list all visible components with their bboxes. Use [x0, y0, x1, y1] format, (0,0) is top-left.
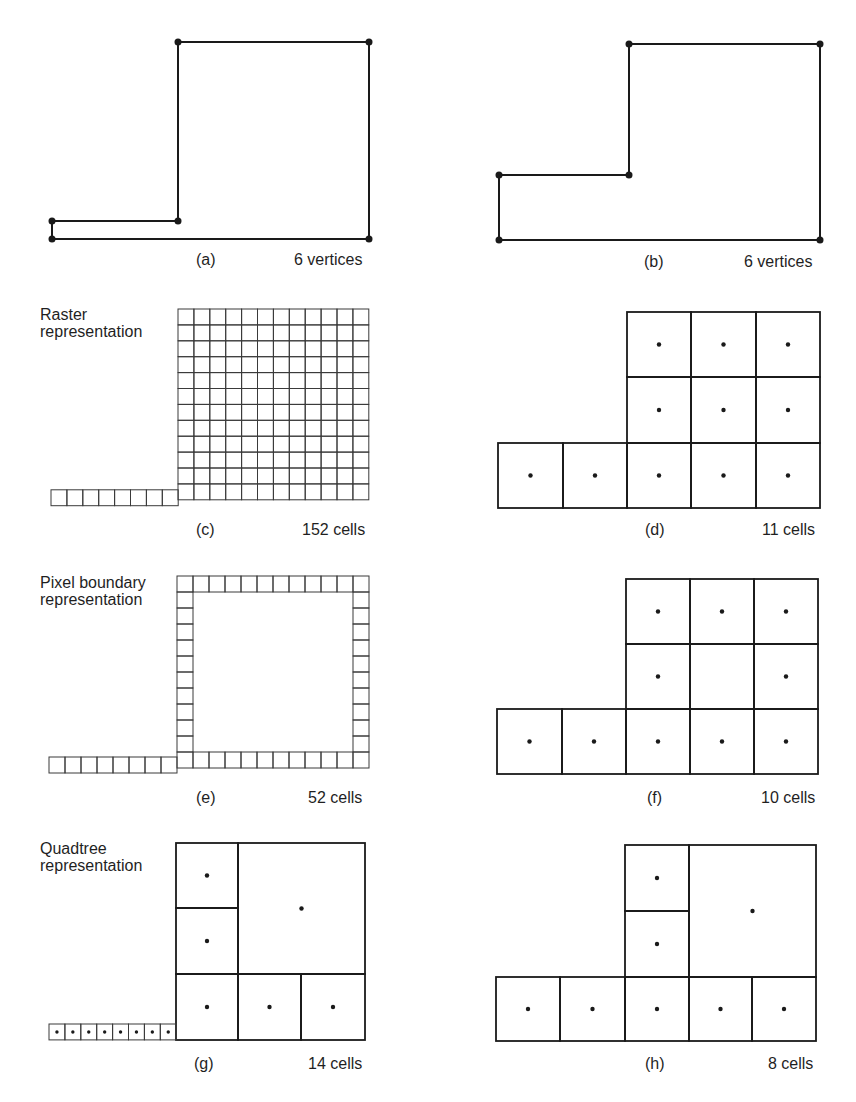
raster-cell [289, 325, 305, 341]
raster-cell [289, 420, 305, 436]
raster-cell [353, 468, 369, 484]
raster-cell [178, 404, 194, 420]
raster-cell [83, 490, 99, 506]
centroid-dot [526, 1007, 530, 1011]
centroid-dot [657, 342, 661, 346]
raster-cell [321, 576, 337, 592]
panel-e-caption: (e) [196, 790, 216, 806]
raster-cell [337, 420, 353, 436]
raster-cell [289, 309, 305, 325]
centroid-dot [119, 1030, 122, 1033]
raster-cell [321, 309, 337, 325]
raster-cell [115, 490, 131, 506]
raster-cell [353, 389, 369, 405]
raster-cell [258, 389, 274, 405]
vertex-dot [496, 237, 503, 244]
panel-a-caption: (a) [196, 252, 216, 268]
raster-cell [226, 373, 242, 389]
centroid-dot [786, 342, 790, 346]
centroid-dot [205, 873, 209, 877]
centroid-dot [721, 342, 725, 346]
raster-cell [225, 752, 241, 768]
vertex-dot [49, 218, 56, 225]
raster-cell [353, 688, 369, 704]
raster-cell [353, 608, 369, 624]
raster-cell [226, 325, 242, 341]
panel-c-caption: (c) [196, 522, 215, 538]
raster-cell [178, 309, 194, 325]
centroid-dot [784, 739, 788, 743]
raster-cell [305, 389, 321, 405]
raster-cell [226, 404, 242, 420]
raster-cell [321, 325, 337, 341]
raster-cell [178, 325, 194, 341]
raster-cell [353, 309, 369, 325]
polygon-outline [499, 44, 820, 240]
raster-cell [258, 325, 274, 341]
vertex-dot [626, 172, 633, 179]
quadtree-representation-label: Quadtree representation [40, 840, 142, 874]
raster-cell [67, 490, 83, 506]
raster-cell [273, 309, 289, 325]
vertex-dot [817, 237, 824, 244]
raster-cell [210, 373, 226, 389]
centroid-dot [151, 1030, 154, 1033]
raster-cell [49, 757, 65, 773]
centroid-dot [657, 473, 661, 477]
raster-cell [242, 357, 258, 373]
side-label-line-2: representation [40, 591, 146, 608]
raster-cell [258, 420, 274, 436]
raster-cell [289, 341, 305, 357]
raster-cell [321, 357, 337, 373]
raster-cell [161, 757, 177, 773]
raster-cell [194, 484, 210, 500]
centroid-dot [592, 739, 596, 743]
raster-cell [353, 736, 369, 752]
raster-cell [258, 373, 274, 389]
raster-cell [209, 752, 225, 768]
centroid-dot [782, 1007, 786, 1011]
raster-cell [337, 468, 353, 484]
panel-d-caption: (d) [645, 522, 665, 538]
panel-b-count-label: 6 vertices [744, 254, 812, 270]
raster-cell [257, 752, 273, 768]
raster-cell [241, 752, 257, 768]
raster-cell [273, 420, 289, 436]
raster-cell [177, 688, 193, 704]
raster-cell [353, 592, 369, 608]
raster-cell [321, 468, 337, 484]
raster-cell [193, 576, 209, 592]
centroid-dot [720, 609, 724, 613]
raster-cell [177, 608, 193, 624]
raster-cell [321, 404, 337, 420]
centroid-dot [87, 1030, 90, 1033]
raster-cell [353, 404, 369, 420]
raster-cell [242, 325, 258, 341]
raster-cell [146, 490, 162, 506]
panel-a-count-label: 6 vertices [294, 252, 362, 268]
centroid-dot [656, 609, 660, 613]
raster-cell [273, 752, 289, 768]
raster-cell [273, 484, 289, 500]
vertex-dot [49, 236, 56, 243]
vertex-dot [817, 41, 824, 48]
pixel-boundary-representation-label: Pixel boundary representation [40, 574, 146, 608]
raster-cell [178, 341, 194, 357]
raster-cell [178, 373, 194, 389]
raster-cell [337, 452, 353, 468]
raster-cell [289, 357, 305, 373]
raster-cell [273, 357, 289, 373]
raster-cell [225, 576, 241, 592]
raster-cell [273, 436, 289, 452]
raster-cell [162, 490, 178, 506]
raster-cell [81, 757, 97, 773]
centroid-dot [267, 1005, 271, 1009]
centroid-dot [786, 408, 790, 412]
raster-cell [353, 341, 369, 357]
raster-cell [353, 576, 369, 592]
side-label-line-1: Quadtree [40, 840, 142, 857]
panel-h-coarse-quadtree [496, 845, 816, 1041]
raster-cell [242, 341, 258, 357]
panel-f-caption: (f) [647, 790, 662, 806]
raster-cell [209, 576, 225, 592]
